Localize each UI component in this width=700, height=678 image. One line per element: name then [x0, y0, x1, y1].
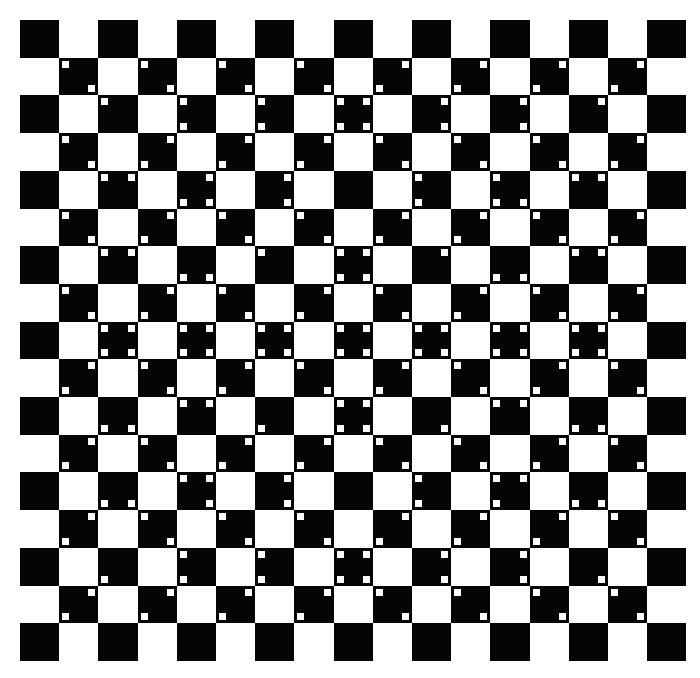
black-square — [98, 397, 138, 435]
black-square — [412, 322, 451, 359]
white-square — [20, 586, 59, 623]
black-square — [177, 472, 216, 510]
black-square — [647, 322, 686, 359]
corner-dot-tl — [297, 61, 304, 68]
corner-dot-bl — [493, 500, 500, 507]
white-square — [177, 359, 216, 397]
white-square — [530, 20, 569, 58]
corner-dot-tl — [454, 589, 461, 596]
black-square — [490, 623, 530, 661]
white-square — [451, 95, 490, 133]
corner-dot-tr — [128, 174, 135, 181]
corner-dot-tl — [337, 325, 344, 332]
white-square — [608, 246, 647, 284]
white-square — [530, 171, 569, 209]
white-square — [373, 472, 412, 510]
corner-dot-tl — [415, 475, 422, 482]
black-square — [373, 510, 412, 548]
corner-dot-tr — [245, 589, 252, 596]
black-square — [647, 171, 686, 209]
corner-dot-tl — [258, 325, 265, 332]
white-square — [216, 322, 255, 359]
corner-dot-tl — [297, 212, 304, 219]
corner-dot-tl — [141, 362, 148, 369]
corner-dot-br — [167, 462, 174, 469]
corner-dot-tr — [284, 475, 291, 482]
black-square — [608, 586, 647, 623]
black-square — [98, 20, 138, 58]
black-square — [647, 623, 686, 661]
corner-dot-bl — [337, 123, 344, 130]
corner-dot-bl — [101, 576, 108, 583]
black-square — [412, 246, 451, 284]
black-square — [294, 284, 334, 322]
white-square — [608, 472, 647, 510]
corner-dot-tr — [324, 438, 331, 445]
white-square — [647, 133, 686, 171]
white-square — [530, 548, 569, 586]
black-square — [490, 472, 530, 510]
white-square — [98, 209, 138, 246]
white-square — [216, 472, 255, 510]
corner-dot-bl — [62, 538, 69, 545]
corner-dot-bl — [611, 312, 618, 319]
white-square — [647, 284, 686, 322]
corner-dot-tl — [180, 475, 187, 482]
corner-dot-br — [637, 613, 644, 620]
black-square — [294, 133, 334, 171]
corner-dot-bl — [219, 387, 226, 394]
white-square — [490, 359, 530, 397]
black-square — [216, 359, 255, 397]
corner-dot-br — [598, 500, 605, 507]
corner-dot-br — [88, 312, 95, 319]
corner-dot-br — [441, 425, 448, 432]
white-square — [59, 20, 98, 58]
corner-dot-tl — [493, 475, 500, 482]
white-square — [138, 397, 177, 435]
white-square — [98, 58, 138, 95]
corner-dot-tr — [441, 325, 448, 332]
corner-dot-bl — [258, 576, 265, 583]
corner-dot-br — [245, 85, 252, 92]
white-square — [20, 133, 59, 171]
corner-dot-bl — [337, 425, 344, 432]
corner-dot-br — [363, 123, 370, 130]
corner-dot-bl — [141, 312, 148, 319]
corner-dot-tr — [480, 212, 487, 219]
white-square — [530, 246, 569, 284]
corner-dot-tr — [559, 61, 566, 68]
black-square — [20, 623, 59, 661]
white-square — [334, 133, 373, 171]
corner-dot-bl — [141, 161, 148, 168]
black-square — [334, 397, 373, 435]
corner-dot-tl — [572, 325, 579, 332]
black-square — [59, 435, 98, 472]
corner-dot-tl — [62, 136, 69, 143]
black-square — [59, 586, 98, 623]
corner-dot-bl — [62, 613, 69, 620]
corner-dot-tr — [284, 174, 291, 181]
corner-dot-br — [245, 236, 252, 243]
black-square — [569, 548, 608, 586]
corner-dot-tl — [415, 174, 422, 181]
corner-dot-tl — [611, 362, 618, 369]
corner-dot-bl — [180, 576, 187, 583]
black-square — [255, 548, 294, 586]
corner-dot-bl — [533, 538, 540, 545]
white-square — [59, 322, 98, 359]
corner-dot-br — [363, 349, 370, 356]
corner-dot-tl — [572, 174, 579, 181]
corner-dot-tl — [101, 249, 108, 256]
corner-dot-tr — [598, 174, 605, 181]
white-square — [451, 472, 490, 510]
corner-dot-bl — [376, 236, 383, 243]
corner-dot-bl — [297, 161, 304, 168]
corner-dot-tr — [598, 325, 605, 332]
black-square — [255, 397, 294, 435]
white-square — [647, 586, 686, 623]
corner-dot-tr — [559, 438, 566, 445]
corner-dot-br — [559, 613, 566, 620]
corner-dot-bl — [337, 576, 344, 583]
corner-dot-tl — [101, 98, 108, 105]
white-square — [569, 284, 608, 322]
